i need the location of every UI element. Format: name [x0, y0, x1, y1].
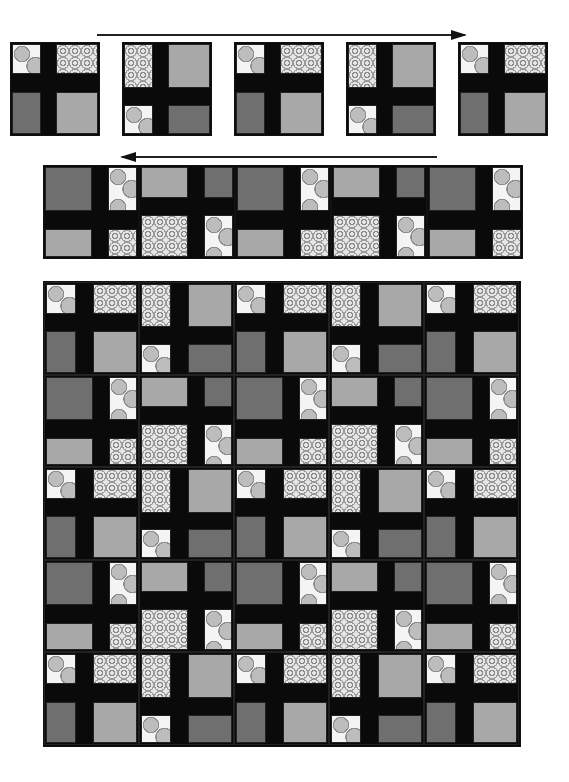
patch-top-right-light: [392, 44, 434, 88]
patch-top-right-floral: [93, 284, 138, 314]
patch-top-right-light: [188, 284, 233, 327]
patch-bottom-left-dots: [331, 344, 361, 372]
patch-bottom-left-floral: [141, 609, 188, 650]
patch-bottom-right-dots: [204, 424, 232, 465]
patch-bottom-left-dark: [426, 516, 456, 557]
patch-top-left-dots: [236, 284, 266, 314]
patch-bottom-right-light: [93, 702, 138, 743]
patch-top-left-dark: [46, 562, 93, 605]
patch-top-right-light: [168, 44, 210, 88]
patch-bottom-right-floral: [109, 438, 137, 466]
patch-top-left-floral: [331, 654, 361, 697]
patch-bottom-left-light: [236, 623, 283, 651]
patch-top-right-dots: [108, 167, 137, 211]
patch-top-left-dots: [236, 654, 266, 684]
patch-bottom-left-dots: [141, 344, 171, 372]
patch-top-right-floral: [473, 654, 518, 684]
finished-quilt: [43, 281, 521, 747]
patch-top-left-dots: [46, 284, 76, 314]
quilt-block-a-rot: [235, 165, 331, 259]
quilt-block-a: [234, 282, 329, 375]
quilt-block-b-rot: [139, 560, 234, 653]
quilt-block-b: [139, 467, 234, 560]
patch-top-right-floral: [283, 469, 328, 499]
patch-top-right-floral: [283, 284, 328, 314]
patch-bottom-left-dark: [12, 92, 41, 134]
patch-bottom-right-floral: [489, 623, 517, 651]
patch-top-left-floral: [348, 44, 377, 88]
patch-bottom-right-floral: [300, 229, 329, 257]
quilt-block-a: [10, 42, 100, 136]
quilt-block-a-rot: [44, 375, 139, 468]
quilt-block-b-rot: [139, 165, 235, 259]
patch-top-right-floral: [93, 469, 138, 499]
patch-bottom-left-floral: [141, 215, 188, 257]
patch-top-left-floral: [141, 654, 171, 697]
quilt-block-b-rot: [329, 375, 424, 468]
patch-top-left-dots: [236, 469, 266, 499]
patch-top-right-dots: [300, 167, 329, 211]
quilt-block-a: [424, 467, 519, 560]
quilt-block-a: [458, 42, 548, 136]
patch-bottom-right-light: [93, 516, 138, 557]
patch-bottom-left-light: [426, 438, 473, 466]
patch-top-left-light: [141, 562, 188, 592]
patch-top-left-light: [331, 562, 378, 592]
patch-bottom-right-dark: [188, 715, 233, 743]
patch-bottom-left-light: [236, 438, 283, 466]
patch-bottom-right-dots: [204, 609, 232, 650]
patch-bottom-left-dark: [46, 702, 76, 743]
patch-top-right-light: [378, 654, 423, 697]
patch-bottom-right-dark: [378, 344, 423, 372]
patch-top-right-dark: [396, 167, 425, 198]
patch-bottom-left-dots: [331, 715, 361, 743]
patch-top-right-dots: [489, 377, 517, 420]
patch-bottom-left-dark: [236, 516, 266, 557]
patch-top-right-dark: [204, 377, 232, 407]
patch-bottom-right-dark: [168, 105, 210, 134]
quilt-block-b: [122, 42, 212, 136]
patch-bottom-right-dark: [188, 529, 233, 557]
patch-top-left-dark: [426, 562, 473, 605]
patch-top-left-floral: [331, 469, 361, 512]
patch-top-right-floral: [504, 44, 546, 74]
patch-bottom-left-light: [237, 229, 284, 257]
patch-top-left-light: [333, 167, 380, 198]
patch-top-right-floral: [473, 284, 518, 314]
patch-bottom-left-dots: [141, 715, 171, 743]
quilt-block-a-rot: [43, 165, 139, 259]
patch-top-right-dark: [204, 562, 232, 592]
patch-bottom-right-light: [504, 92, 546, 134]
patch-bottom-left-light: [45, 229, 92, 257]
patch-top-right-light: [378, 284, 423, 327]
quilt-block-a: [234, 652, 329, 745]
quilt-block-a: [44, 467, 139, 560]
patch-top-left-dark: [46, 377, 93, 420]
patch-bottom-left-dark: [236, 92, 265, 134]
patch-bottom-right-floral: [489, 438, 517, 466]
patch-top-left-dots: [426, 654, 456, 684]
quilt-block-b: [139, 652, 234, 745]
patch-bottom-right-dark: [378, 715, 423, 743]
quilt-block-a: [44, 282, 139, 375]
patch-bottom-right-light: [473, 702, 518, 743]
patch-bottom-left-dark: [46, 516, 76, 557]
quilt-block-a-rot: [234, 375, 329, 468]
patch-top-left-dots: [460, 44, 489, 74]
quilt-block-b: [139, 282, 234, 375]
patch-top-right-dots: [299, 377, 327, 420]
patch-top-right-floral: [280, 44, 322, 74]
patch-bottom-left-floral: [141, 424, 188, 465]
patch-bottom-left-light: [426, 623, 473, 651]
patch-bottom-left-light: [429, 229, 476, 257]
patch-bottom-right-dots: [394, 424, 422, 465]
patch-top-left-floral: [124, 44, 153, 88]
patch-top-right-light: [188, 654, 233, 697]
patch-top-right-dark: [394, 377, 422, 407]
quilt-block-a-rot: [424, 560, 519, 653]
patch-bottom-right-floral: [299, 438, 327, 466]
quilt-block-a-rot: [44, 560, 139, 653]
arrow-right-icon: [97, 34, 465, 36]
patch-top-left-floral: [141, 469, 171, 512]
patch-top-left-floral: [331, 284, 361, 327]
